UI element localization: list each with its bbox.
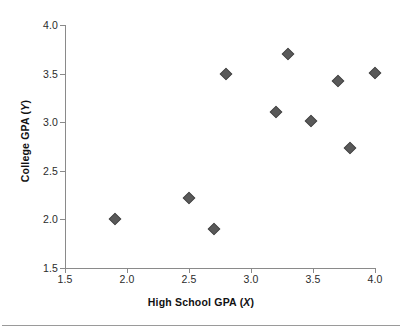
y-axis-title: College GPA (Y): [19, 61, 31, 221]
y-tick-label: 2.5: [28, 165, 58, 177]
x-tick-label: 2.0: [110, 273, 144, 285]
x-tick-label: 3.5: [296, 273, 330, 285]
y-tick-label: 3.5: [28, 68, 58, 80]
x-tick-label: 1.5: [48, 273, 82, 285]
x-tick-label: 3.0: [234, 273, 268, 285]
y-tick-mark: [60, 171, 65, 172]
y-tick-label-text: 3.5: [32, 68, 58, 80]
y-tick-label-text: 4.0: [32, 19, 58, 31]
y-tick-label: 2.0: [28, 213, 58, 225]
y-axis-title-variable: Y: [19, 104, 31, 111]
scatter-plot-figure: 1.52.02.53.03.54.0 1.52.02.53.03.54.0 Hi…: [0, 0, 402, 333]
x-axis-title-variable: X: [243, 296, 250, 308]
y-axis-title-paren-close: ): [19, 100, 31, 104]
y-tick-label-text: 2.5: [32, 165, 58, 177]
y-axis-title-text: College GPA: [19, 118, 31, 183]
x-axis-title-paren-close: ): [251, 296, 255, 308]
x-tick-label: 2.5: [172, 273, 206, 285]
plot-area: [65, 25, 375, 268]
y-tick-mark: [60, 25, 65, 26]
x-axis-line: [65, 268, 376, 269]
y-tick-mark: [60, 122, 65, 123]
x-axis-title: High School GPA (X): [0, 296, 402, 308]
y-tick-mark: [60, 219, 65, 220]
y-axis-line: [65, 25, 66, 269]
x-axis-title-text: High School GPA: [148, 296, 237, 308]
y-tick-label-text: 3.0: [32, 116, 58, 128]
bottom-divider: [2, 325, 400, 326]
x-tick-label: 4.0: [358, 273, 392, 285]
y-tick-mark: [60, 74, 65, 75]
y-tick-label: 4.0: [28, 19, 58, 31]
y-tick-label-text: 2.0: [32, 213, 58, 225]
y-axis-title-paren: (: [19, 111, 31, 115]
y-tick-label: 3.0: [28, 116, 58, 128]
